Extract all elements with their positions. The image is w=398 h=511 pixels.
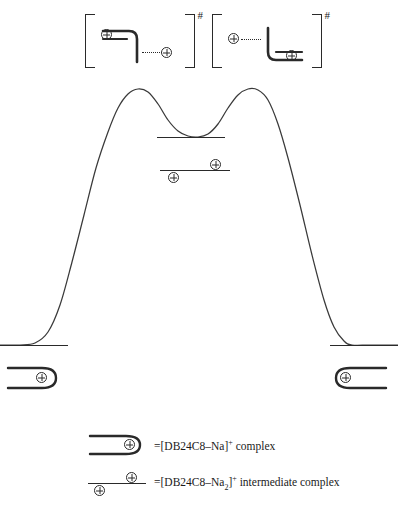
legend-complex-label: =[DB24C8–Na]+ complex <box>154 438 275 452</box>
legend-plus-charge-below-icon <box>94 485 105 496</box>
product-plus-charge-icon <box>340 372 351 383</box>
legend-item-complex: =[DB24C8–Na]+ complex <box>88 428 388 462</box>
intermediate-lower-level <box>160 170 230 171</box>
legend-intermediate-label: =[DB24C8–Na2]+ intermediate complex <box>154 474 340 491</box>
intermediate-upper-level <box>157 137 225 138</box>
reactant-baseline <box>0 345 68 346</box>
legend-intermediate-level-line <box>88 483 146 484</box>
plus-charge-above-icon <box>210 159 221 170</box>
product-complex-right <box>324 362 390 394</box>
legend-item-intermediate: =[DB24C8–Na2]+ intermediate complex <box>88 466 388 500</box>
legend-plus-charge-icon <box>124 439 135 450</box>
product-baseline <box>330 345 398 346</box>
legend-plus-charge-above-icon <box>126 472 137 483</box>
crown-ether-capsule-symbol-icon <box>88 430 152 460</box>
energy-profile-figure: # # <box>0 0 398 511</box>
reactant-plus-charge-icon <box>36 372 47 383</box>
energy-path-curve <box>0 0 398 400</box>
plus-charge-below-icon <box>168 172 179 183</box>
